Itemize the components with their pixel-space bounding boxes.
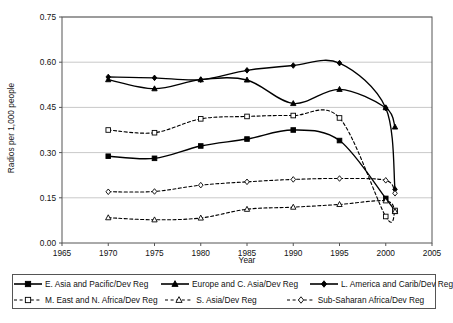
- x-axis-title: Year: [239, 255, 256, 265]
- marker-filled-square: [106, 154, 111, 159]
- y-tick-label: 0.15: [40, 193, 57, 203]
- legend-sample: [13, 278, 43, 290]
- legend-sample: [160, 278, 190, 290]
- legend-sample: [13, 294, 43, 306]
- legend-marker-open-diamond: [286, 294, 316, 306]
- legend-sample: [286, 294, 316, 306]
- gridlines: [62, 17, 432, 198]
- legend-marker-filled-diamond: [309, 278, 339, 290]
- legend-item[interactable]: M. East and N. Africa/Dev Reg: [13, 292, 164, 308]
- y-tick-label: 0.60: [40, 57, 57, 67]
- marker-open-diamond: [198, 182, 203, 188]
- legend-item-label: S. Asia/Dev Reg: [196, 295, 256, 305]
- legend-sample: [164, 294, 194, 306]
- series-0: [106, 128, 397, 214]
- series-line: [108, 110, 395, 222]
- marker-filled-diamond: [152, 75, 157, 81]
- marker-open-diamond: [245, 179, 250, 185]
- marker-open-diamond: [337, 176, 342, 182]
- marker-open-diamond: [152, 189, 157, 195]
- marker-filled-diamond: [291, 63, 296, 69]
- y-tick-label: 0.00: [40, 238, 57, 248]
- marker-filled-square: [337, 138, 342, 143]
- x-tick-label: 1980: [192, 248, 211, 258]
- x-tick-label: 1965: [53, 248, 72, 258]
- series-line: [108, 178, 395, 193]
- chart-legend: E. Asia and Pacific/Dev RegEurope and C.…: [12, 274, 436, 309]
- legend-item[interactable]: E. Asia and Pacific/Dev Reg: [13, 276, 160, 292]
- x-tick-label: 2000: [377, 248, 396, 258]
- series-line: [108, 201, 395, 220]
- legend-item-label: E. Asia and Pacific/Dev Reg: [45, 279, 148, 289]
- marker-filled-triangle: [392, 124, 397, 129]
- legend-item[interactable]: Sub-Saharan Africa/Dev Reg: [286, 292, 435, 308]
- marker-open-diamond: [291, 177, 296, 183]
- series-line: [108, 130, 395, 211]
- marker-open-square: [245, 114, 250, 119]
- legend-row-top: E. Asia and Pacific/Dev RegEurope and C.…: [13, 276, 435, 292]
- series-3: [106, 110, 397, 222]
- marker-filled-square: [198, 144, 203, 149]
- legend-item-label: M. East and N. Africa/Dev Reg: [45, 295, 158, 305]
- series-2: [106, 60, 397, 192]
- y-tick-label: 0.30: [40, 148, 57, 158]
- series-4: [106, 198, 398, 222]
- marker-open-square: [198, 117, 203, 122]
- marker-open-square: [383, 214, 388, 219]
- legend-marker-open-square: [13, 294, 43, 306]
- series-line: [108, 78, 395, 127]
- y-tick-label: 0.45: [40, 102, 57, 112]
- series-line: [108, 60, 395, 189]
- y-axis-tick-labels: 0.000.150.300.450.600.75: [40, 12, 57, 248]
- marker-open-square: [337, 116, 342, 121]
- legend-item-label: L. America and Carib/Dev Reg: [341, 279, 453, 289]
- marker-open-square: [291, 113, 296, 118]
- marker-filled-square: [245, 137, 250, 142]
- marker-open-square: [152, 130, 157, 135]
- marker-filled-square: [291, 128, 296, 133]
- x-tick-label: 1970: [99, 248, 118, 258]
- plot-area: 0.000.150.300.450.600.75 196519701975198…: [0, 0, 451, 270]
- line-chart-svg: 0.000.150.300.450.600.75 196519701975198…: [0, 0, 451, 270]
- marker-filled-square: [25, 281, 30, 286]
- marker-open-diamond: [393, 190, 398, 196]
- marker-open-diamond: [383, 178, 388, 184]
- marker-filled-diamond: [245, 68, 250, 74]
- x-tick-label: 2005: [423, 248, 442, 258]
- legend-sample: [309, 278, 339, 290]
- marker-open-diamond: [106, 189, 111, 195]
- y-tick-label: 0.75: [40, 12, 57, 22]
- x-tick-label: 1990: [284, 248, 303, 258]
- x-tick-label: 1975: [145, 248, 164, 258]
- legend-row-bottom: M. East and N. Africa/Dev RegS. Asia/Dev…: [13, 292, 435, 308]
- marker-open-square: [106, 128, 111, 133]
- legend-item-label: Sub-Saharan Africa/Dev Reg: [318, 295, 425, 305]
- marker-filled-square: [152, 156, 157, 161]
- marker-filled-diamond: [321, 281, 326, 287]
- legend-item[interactable]: L. America and Carib/Dev Reg: [309, 276, 435, 292]
- marker-open-diamond: [298, 297, 303, 303]
- legend-item[interactable]: Europe and C. Asia/Dev Reg: [160, 276, 309, 292]
- marker-open-square: [25, 297, 30, 302]
- x-tick-label: 1995: [330, 248, 349, 258]
- y-axis-title: Radios per 1,000 people: [6, 82, 16, 173]
- legend-marker-filled-square: [13, 278, 43, 290]
- legend-marker-open-triangle: [164, 294, 194, 306]
- series-5: [106, 176, 397, 196]
- legend-marker-filled-triangle: [160, 278, 190, 290]
- legend-item-label: Europe and C. Asia/Dev Reg: [192, 279, 298, 289]
- series-1: [106, 77, 398, 129]
- marker-filled-diamond: [337, 60, 342, 66]
- legend-item[interactable]: S. Asia/Dev Reg: [164, 292, 285, 308]
